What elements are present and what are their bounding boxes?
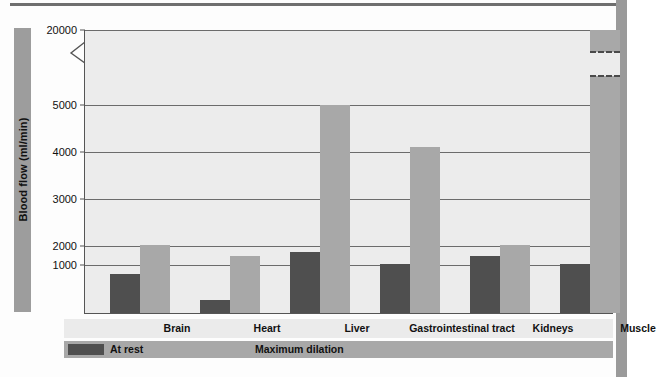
bar-liver-max-dilation bbox=[320, 105, 350, 313]
bar-liver-at-rest bbox=[290, 252, 320, 313]
y-tick-label: 4000 bbox=[17, 146, 77, 158]
bars-layer bbox=[85, 30, 613, 313]
bar-gastrointestinal-tract-at-rest bbox=[380, 264, 410, 313]
bar-muscle-at-rest bbox=[560, 264, 590, 313]
legend-label: Maximum dilation bbox=[255, 341, 344, 358]
bar-break-gap bbox=[590, 52, 620, 76]
y-tick-label: 2000 bbox=[17, 240, 77, 252]
y-tick-label: 5000 bbox=[17, 99, 77, 111]
legend-band: At restMaximum dilation bbox=[64, 341, 613, 358]
bar-heart-max-dilation bbox=[230, 256, 260, 313]
bar-brain-max-dilation bbox=[140, 245, 170, 313]
category-label: Muscle bbox=[568, 319, 661, 338]
bar-heart-at-rest bbox=[200, 300, 230, 313]
bar-break-dash bbox=[590, 51, 620, 53]
legend-label: At rest bbox=[110, 341, 143, 358]
x-axis-line bbox=[84, 313, 613, 314]
bar-kidneys-max-dilation bbox=[500, 245, 530, 313]
bar-brain-at-rest bbox=[110, 274, 140, 313]
y-tick-label: 1000 bbox=[17, 259, 77, 271]
category-label-band: BrainHeartLiverGastrointestinal tractKid… bbox=[64, 319, 613, 338]
y-tick-label: 3000 bbox=[17, 193, 77, 205]
top-divider-rule bbox=[10, 3, 618, 6]
bar-kidneys-at-rest bbox=[470, 256, 500, 313]
bar-gastrointestinal-tract-max-dilation bbox=[410, 147, 440, 313]
legend-swatch-at-rest bbox=[68, 344, 104, 355]
plot-area bbox=[85, 30, 613, 313]
bar-break-dash bbox=[590, 75, 620, 77]
